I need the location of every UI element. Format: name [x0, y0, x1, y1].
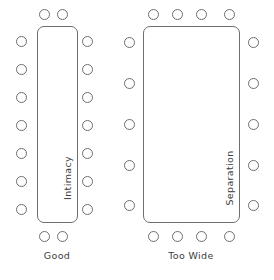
- chair-wide-left-1: [124, 37, 135, 48]
- chair-wide-top-1: [148, 9, 159, 20]
- chair-wide-left-2: [124, 78, 135, 89]
- chair-wide-right-4: [248, 160, 259, 171]
- chair-wide-right-2: [248, 78, 259, 89]
- chair-wide-left-3: [124, 119, 135, 130]
- chair-wide-bottom-3: [196, 231, 207, 242]
- diagram-canvas: Intimacy Good Separation: [0, 0, 274, 280]
- chair-wide-top-4: [224, 9, 235, 20]
- chair-wide-left-5: [124, 200, 135, 211]
- chair-wide-top-3: [196, 9, 207, 20]
- table-group-too-wide: Separation Too Wide: [0, 0, 274, 280]
- chair-wide-bottom-1: [148, 231, 159, 242]
- caption-too-wide: Too Wide: [151, 250, 231, 261]
- chair-wide-right-1: [248, 37, 259, 48]
- chair-wide-bottom-2: [172, 231, 183, 242]
- chair-wide-right-3: [248, 119, 259, 130]
- chair-wide-top-2: [172, 9, 183, 20]
- chair-wide-left-4: [124, 160, 135, 171]
- chair-wide-right-5: [248, 200, 259, 211]
- chair-wide-bottom-4: [224, 231, 235, 242]
